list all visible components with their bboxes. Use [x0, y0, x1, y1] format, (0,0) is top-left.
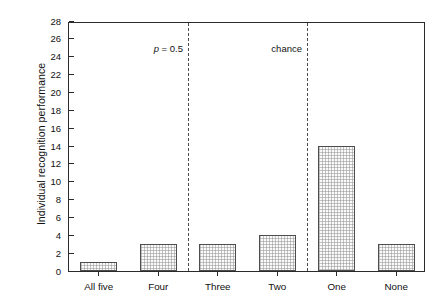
x-tick-label: Four: [148, 281, 168, 292]
y-tick-label: 16: [50, 122, 61, 135]
bar: [199, 244, 236, 271]
y-tick-label: 6: [56, 211, 61, 224]
y-tick-label: 26: [50, 32, 61, 45]
y-tick-label: 4: [56, 229, 61, 242]
y-axis-title: Individual recognition performance: [35, 19, 47, 269]
x-tick-label: All five: [84, 281, 113, 292]
x-tick-label: None: [385, 281, 408, 292]
y-tick-label: 0: [56, 265, 61, 278]
x-tick-label: One: [327, 281, 346, 292]
bar: [140, 244, 177, 271]
bar: [80, 262, 117, 271]
bar: [259, 235, 296, 271]
x-tick-mark: [396, 271, 397, 276]
x-tick-mark: [217, 271, 218, 276]
y-tick-label: 14: [50, 140, 61, 153]
y-tick-label: 10: [50, 175, 61, 188]
bar: [378, 244, 415, 271]
bar-chart: Individual recognition performance 02468…: [0, 0, 445, 308]
y-tick-label: 20: [50, 86, 61, 99]
y-tick-label: 28: [50, 15, 61, 28]
x-tick-mark: [336, 271, 337, 276]
x-tick-label: Two: [268, 281, 286, 292]
y-tick-label: 8: [56, 193, 61, 206]
x-tick-mark: [158, 271, 159, 276]
y-tick-label: 12: [50, 157, 61, 170]
x-tick-mark: [98, 271, 99, 276]
y-tick-label: 24: [50, 50, 61, 63]
y-tick-label: 18: [50, 104, 61, 117]
plot-area: 0246810121416182022242628 p = 0.5chance …: [68, 22, 425, 272]
bars-layer: [69, 23, 424, 271]
y-tick-label: 22: [50, 68, 61, 81]
y-tick-label: 2: [56, 247, 61, 260]
bar: [318, 146, 355, 271]
x-tick-mark: [277, 271, 278, 276]
y-tick-mark: [69, 21, 74, 22]
x-tick-label: Three: [205, 281, 231, 292]
